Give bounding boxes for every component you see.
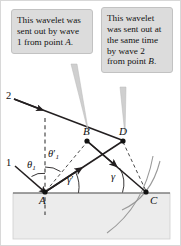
callout-right-line-1: This wavelet	[107, 13, 168, 24]
callout-left-line-3: 1 from point A.	[17, 37, 88, 48]
angle-label-theta-1: θ1	[27, 159, 36, 172]
callout-right: This wavelet was sent out at the same ti…	[101, 7, 173, 73]
callout-left-line-2: sent out by wave	[17, 26, 88, 37]
point-dot-B	[84, 138, 89, 143]
angle-label-gamma-prime: γ′	[67, 174, 73, 185]
callout-right-line-4: by wave 2	[107, 46, 168, 57]
callout-left-line-1: This wavelet was	[17, 15, 88, 26]
callout-left: This wavelet was sent out by wave 1 from…	[11, 9, 93, 54]
incident-ray-2-arrowhead-seg	[14, 99, 41, 110]
angle-arc-gamma-prime	[76, 172, 80, 193]
refracting-medium-block	[13, 193, 170, 239]
point-dot-D	[120, 138, 125, 143]
refracted-ray-A-to-D-arrow	[45, 169, 80, 192]
ray-label-1: 1	[6, 157, 11, 168]
point-label-D: D	[119, 125, 127, 137]
theta-1-prime-subscript: 1	[55, 153, 59, 161]
callout-right-line-5: from point B.	[107, 56, 168, 67]
point-dot-C	[143, 189, 148, 194]
callout-right-line-2: was sent out at	[107, 24, 168, 35]
callout-right-line-5-text: from point	[107, 56, 148, 66]
callout-left-line-3-text: 1 from point	[17, 37, 65, 47]
huygens-refraction-figure: This wavelet was sent out by wave 1 from…	[0, 0, 181, 246]
theta-1-subscript: 1	[32, 164, 36, 172]
point-label-B: B	[83, 125, 90, 137]
angle-arc-theta1-prime	[45, 167, 61, 172]
gamma-prime-mark: ′	[71, 174, 73, 185]
angle-label-gamma: γ	[111, 171, 115, 182]
gamma-symbol: γ	[111, 171, 115, 182]
angle-label-theta-1-prime: θ′1	[48, 148, 59, 161]
angle-arc-theta1	[32, 173, 46, 176]
ray-label-2: 2	[6, 90, 11, 101]
point-label-C: C	[150, 194, 157, 206]
point-label-A: A	[39, 194, 46, 206]
wavefront-dashed-D-to-C	[123, 142, 146, 191]
callout-right-line-3: the same time	[107, 35, 168, 46]
